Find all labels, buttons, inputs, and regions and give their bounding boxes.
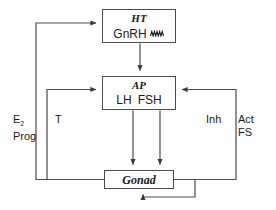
node-hypothalamus-subtitle: GnRH: [113, 27, 164, 40]
edge-gonad-to-ap-t: [47, 90, 96, 180]
edge-label-activin: Act: [238, 113, 254, 126]
node-hypothalamus-title: HT: [131, 13, 146, 24]
edge-label-e2-prog: E2 Prog: [13, 113, 36, 143]
lh-label: LH: [116, 94, 131, 106]
node-anterior-pituitary-subtitle: LH FSH: [116, 94, 161, 106]
edge-label-follistatin: FS: [238, 126, 254, 139]
diagram-canvas: HT GnRH AP LH FSH Gonad E2 Prog T Inh Ac…: [0, 0, 276, 210]
edge-label-activin-follistatin: Act FS: [238, 113, 254, 139]
node-gonad-title: Gonad: [122, 174, 155, 186]
edge-gonad-to-ht-e2prog: [36, 23, 104, 180]
node-hypothalamus[interactable]: HT GnRH: [102, 9, 176, 43]
gnrh-label: GnRH: [113, 28, 146, 40]
edge-label-e2: E2: [13, 113, 36, 130]
pulsatile-wave-icon: [150, 27, 165, 39]
edge-label-testosterone: T: [55, 113, 62, 126]
edge-gonad-to-ap-inhibin: [174, 90, 236, 180]
edge-label-prog: Prog: [13, 130, 36, 143]
node-gonad[interactable]: Gonad: [104, 170, 174, 189]
node-anterior-pituitary[interactable]: AP LH FSH: [102, 76, 176, 110]
fsh-label: FSH: [138, 94, 162, 106]
edge-label-inhibin: Inh: [206, 113, 221, 126]
node-anterior-pituitary-title: AP: [132, 80, 146, 91]
